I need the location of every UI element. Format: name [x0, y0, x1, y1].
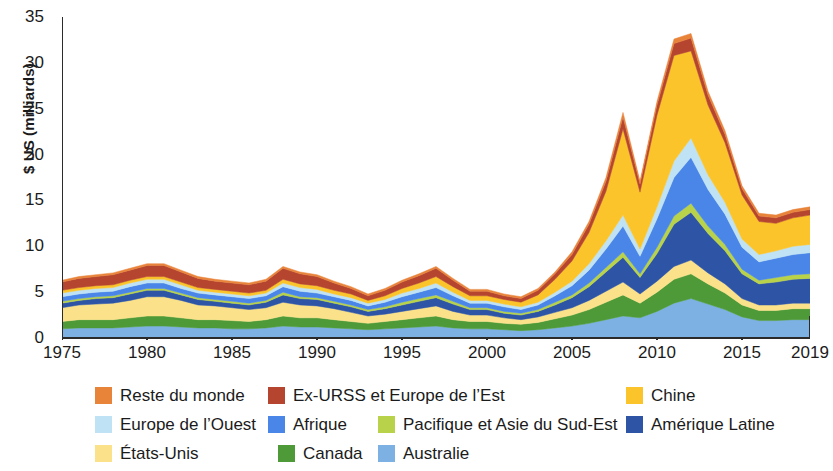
legend-item[interactable]: États-Unis — [95, 440, 198, 466]
y-axis-tick-label: 35 — [6, 8, 44, 25]
y-axis-tick-label: 5 — [6, 283, 44, 300]
y-axis-tick-label: 10 — [6, 237, 44, 254]
legend-item[interactable]: Reste du monde — [95, 382, 245, 408]
stacked-area-svg — [62, 8, 810, 340]
legend-label: Chine — [651, 387, 695, 404]
x-axis-tick-label: 1985 — [202, 344, 262, 361]
legend-label: Amérique Latine — [651, 416, 775, 433]
legend-item[interactable]: Afrique — [268, 411, 347, 437]
y-axis-tick-label: 15 — [6, 191, 44, 208]
legend-label: Canada — [303, 445, 363, 462]
x-axis-tick-label: 2015 — [712, 344, 772, 361]
legend-label: Reste du monde — [120, 387, 245, 404]
legend-label: Europe de l’Ouest — [120, 416, 256, 433]
legend-swatch-icon — [278, 445, 295, 462]
x-axis-tick-label: 2005 — [542, 344, 602, 361]
legend-item[interactable]: Amérique Latine — [626, 411, 775, 437]
legend-row: Reste du mondeEx-URSS et Europe de l’Est… — [0, 382, 824, 408]
x-axis-tick-label: 1990 — [287, 344, 347, 361]
y-axis-tick-label: 30 — [6, 54, 44, 71]
legend-swatch-icon — [95, 416, 112, 433]
x-axis-tick-label: 2019 — [780, 344, 833, 361]
y-axis-tick-label: 25 — [6, 100, 44, 117]
legend-label: Afrique — [293, 416, 347, 433]
legend-swatch-icon — [378, 416, 395, 433]
legend-item[interactable]: Canada — [278, 440, 363, 466]
legend-swatch-icon — [95, 387, 112, 404]
legend-swatch-icon — [268, 387, 285, 404]
legend-item[interactable]: Europe de l’Ouest — [95, 411, 256, 437]
legend-item[interactable]: Pacifique et Asie du Sud-Est — [378, 411, 618, 437]
y-axis-tick-label: 20 — [6, 146, 44, 163]
legend-item[interactable]: Australie — [378, 440, 469, 466]
x-axis-tick-label: 1980 — [117, 344, 177, 361]
legend-item[interactable]: Ex-URSS et Europe de l’Est — [268, 382, 505, 408]
legend-label: États-Unis — [120, 445, 198, 462]
legend-item[interactable]: Chine — [626, 382, 695, 408]
legend-swatch-icon — [95, 445, 112, 462]
chart-legend: Reste du mondeEx-URSS et Europe de l’Est… — [0, 382, 824, 470]
x-axis-tick-label: 1975 — [32, 344, 92, 361]
legend-swatch-icon — [626, 416, 643, 433]
legend-swatch-icon — [626, 387, 643, 404]
legend-label: Australie — [403, 445, 469, 462]
legend-row: Europe de l’OuestAfriquePacifique et Asi… — [0, 411, 824, 437]
x-axis-tick-label: 2010 — [627, 344, 687, 361]
legend-label: Ex-URSS et Europe de l’Est — [293, 387, 505, 404]
legend-swatch-icon — [268, 416, 285, 433]
plot-area — [62, 8, 810, 340]
legend-swatch-icon — [378, 445, 395, 462]
x-axis-tick-label: 1995 — [372, 344, 432, 361]
x-axis-tick-label: 2000 — [457, 344, 517, 361]
legend-label: Pacifique et Asie du Sud-Est — [403, 416, 618, 433]
legend-row: États-UnisCanadaAustralie — [0, 440, 824, 466]
